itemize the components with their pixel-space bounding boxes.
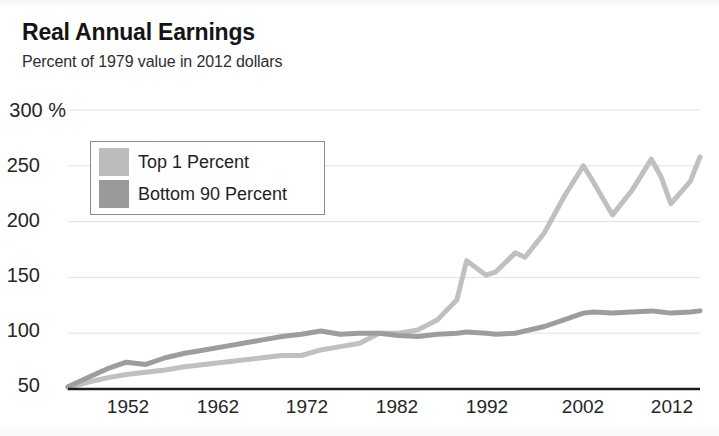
legend-label-bottom-90-percent: Bottom 90 Percent (138, 185, 287, 203)
y-tick-150: 150 (7, 264, 40, 287)
y-tick-100: 100 (7, 319, 40, 342)
chart-legend: Top 1 Percent Bottom 90 Percent (90, 141, 325, 215)
x-tick-2002: 2002 (562, 396, 604, 418)
chart-plot-area (0, 0, 719, 436)
scan-artifact-bottom (0, 422, 719, 436)
x-tick-1972: 1972 (286, 396, 328, 418)
series-line-bottom-90-percent (68, 311, 700, 387)
legend-item-bottom-90-percent: Bottom 90 Percent (99, 179, 287, 209)
legend-label-top-1-percent: Top 1 Percent (138, 153, 249, 171)
x-tick-1952: 1952 (107, 396, 149, 418)
x-tick-1962: 1962 (197, 396, 239, 418)
legend-swatch-bottom-90-percent (99, 180, 129, 208)
legend-item-top-1-percent: Top 1 Percent (99, 147, 249, 177)
x-tick-2012: 2012 (651, 396, 693, 418)
legend-swatch-top-1-percent (99, 148, 129, 176)
y-tick-300: 300 % (9, 99, 66, 122)
y-tick-50: 50 (18, 374, 40, 397)
y-tick-250: 250 (7, 154, 40, 177)
x-tick-1992: 1992 (466, 396, 508, 418)
y-tick-200: 200 (7, 209, 40, 232)
x-tick-1982: 1982 (376, 396, 418, 418)
